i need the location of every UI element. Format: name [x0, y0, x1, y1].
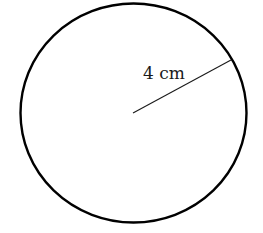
radius-label: 4 cm — [143, 63, 185, 83]
circle-figure: 4 cm — [0, 0, 263, 233]
circle-diagram: 4 cm — [0, 0, 263, 233]
